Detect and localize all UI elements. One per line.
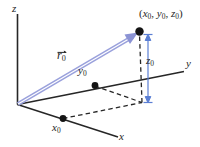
point-close-paren: ) <box>179 7 183 19</box>
figure-canvas <box>0 0 200 147</box>
axis-label-y: y <box>186 58 191 69</box>
component-y0-sub: 0 <box>83 69 87 78</box>
projection-dashed-group <box>63 34 142 119</box>
point-marker-y0 <box>92 82 99 89</box>
component-label-x0: x0 <box>52 122 61 135</box>
point-marker-r0-tip <box>135 27 143 35</box>
point-coordinate-label: (x0, y0, z0) <box>139 8 183 21</box>
vector-subscript: 0 <box>62 54 66 63</box>
point-marker-x0 <box>60 115 67 122</box>
axis-label-x: x <box>119 131 124 142</box>
component-z0-sub: 0 <box>150 59 154 68</box>
x-axis-line <box>18 105 119 138</box>
dashed-foot-to-point <box>140 34 143 103</box>
component-label-z0: z0 <box>146 55 154 68</box>
axis-label-z: z <box>12 3 16 14</box>
dashed-x0-to-foot <box>63 103 142 119</box>
vector-base-symbol: r <box>57 48 62 62</box>
vector-shaft-inner <box>18 37 133 105</box>
vector-symbol-wrap: r <box>57 49 62 61</box>
z0-dimension-group <box>144 34 153 103</box>
point-comma-2: , <box>165 7 168 19</box>
point-comma-1: , <box>151 7 154 19</box>
vector-label-r0: r 0 <box>57 49 66 63</box>
axes-group <box>18 14 185 137</box>
coordinate-system-figure: z y x r 0 y0 x0 z0 (x0, y0, z0) <box>0 0 200 147</box>
component-label-y0: y0 <box>78 65 87 78</box>
component-x0-sub: 0 <box>57 126 61 135</box>
